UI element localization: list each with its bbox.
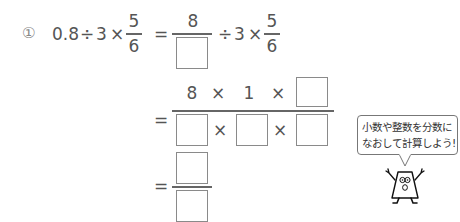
step1-equals: =	[154, 26, 168, 43]
step3-numerator-box[interactable]	[176, 152, 208, 184]
hint-line2: なおして計算しよう!	[362, 135, 453, 151]
step2-num-1: 1	[241, 85, 257, 102]
expr-frac-num: 5	[126, 13, 142, 30]
expr-three: 3	[96, 26, 107, 43]
expr-frac-bar	[126, 33, 142, 35]
expr-decimal: 0.8	[52, 26, 79, 43]
step1-frac-bar	[172, 33, 212, 35]
step2-num-8: 8	[180, 85, 204, 102]
step1-three: 3	[234, 26, 245, 43]
hint-speech-bubble: 小数や整数を分数に なおして計算しよう!	[357, 115, 458, 155]
hint-line1: 小数や整数を分数に	[362, 119, 453, 135]
step1-frac-den: 6	[264, 38, 280, 55]
step2-denominator-box2[interactable]	[236, 114, 268, 146]
step3-denominator-box[interactable]	[176, 190, 208, 222]
step2-numerator-box[interactable]	[296, 77, 328, 107]
step1-denominator-box[interactable]	[176, 37, 208, 69]
step1-frac-bar2	[264, 33, 280, 35]
step3-frac-bar	[172, 186, 212, 188]
expr-frac-den: 6	[126, 38, 142, 55]
step3-equals: =	[154, 178, 168, 195]
expr-times: ×	[110, 26, 124, 43]
step2-den-times2: ×	[272, 122, 288, 139]
problem-number: ①	[22, 26, 35, 41]
step1-div: ÷	[218, 26, 232, 43]
mascot-character-icon	[384, 166, 426, 206]
step2-num-times2: ×	[270, 85, 286, 102]
expr-div: ÷	[80, 26, 94, 43]
step2-den-times1: ×	[212, 122, 228, 139]
step2-num-times1: ×	[210, 85, 226, 102]
step2-denominator-box3[interactable]	[296, 114, 328, 146]
step2-frac-bar	[172, 110, 334, 112]
step1-times: ×	[248, 26, 262, 43]
step2-equals: =	[154, 112, 168, 129]
step1-frac-num: 5	[264, 13, 280, 30]
step2-denominator-box1[interactable]	[176, 114, 208, 146]
step1-numerator: 8	[175, 13, 211, 30]
